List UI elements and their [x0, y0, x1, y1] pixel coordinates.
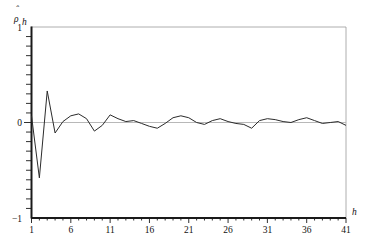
x-tick-label: 16 [145, 225, 155, 235]
y-axis-label-subscript: h [22, 17, 27, 27]
x-tick-label: 31 [263, 225, 273, 235]
acf-series-line [32, 91, 347, 178]
acf-figure: 1 0 −1 ρ ̂ h h 1611162126313641 [0, 0, 369, 248]
x-tick-label: 11 [106, 225, 115, 235]
acf-plot-svg: 1 0 −1 ρ ̂ h h 1611162126313641 [0, 0, 369, 248]
x-tick-label: 26 [223, 225, 233, 235]
svg-text:̂: ̂ [16, 5, 20, 7]
x-tick-label: 6 [68, 225, 73, 235]
y-tick-label-0: 0 [17, 118, 22, 128]
x-axis-ticks [32, 218, 347, 223]
x-tick-labels: 1611162126313641 [29, 225, 351, 235]
y-tick-label-minus1: −1 [12, 214, 22, 224]
x-tick-label: 21 [184, 225, 194, 235]
x-tick-label: 41 [341, 225, 351, 235]
x-axis-label: h [352, 207, 357, 217]
svg-text:ρ: ρ [13, 14, 19, 24]
y-axis-ticks [24, 37, 31, 209]
x-tick-label: 36 [302, 225, 312, 235]
x-tick-label: 1 [29, 225, 34, 235]
